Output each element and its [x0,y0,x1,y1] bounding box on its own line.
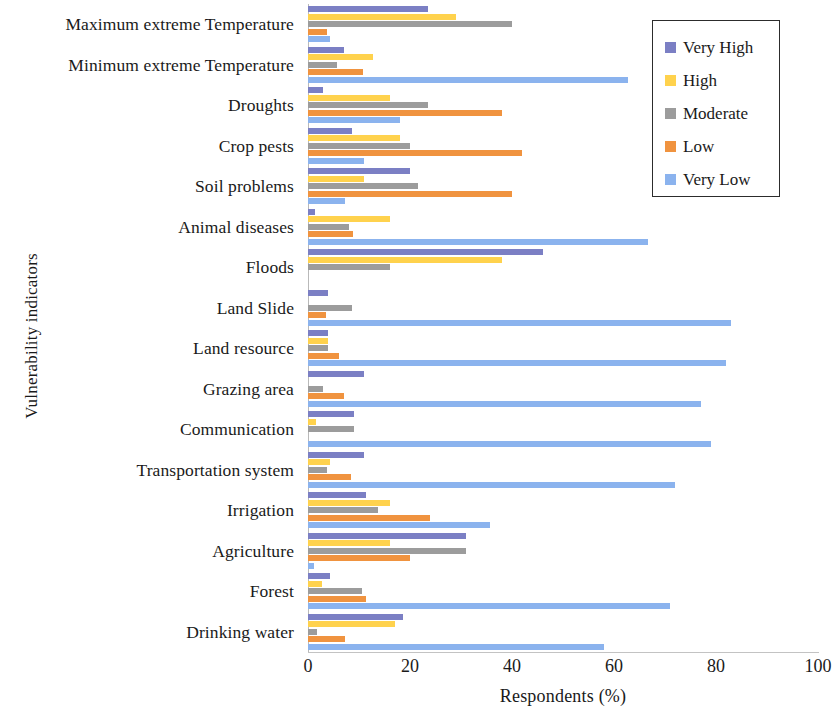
bar [308,110,502,116]
bar-group [308,409,818,450]
bar [308,555,410,561]
y-axis-label: Land Slide [12,298,294,318]
y-axis-label: Animal diseases [12,217,294,237]
x-axis-tick: 0 [278,656,338,677]
bar [308,629,317,635]
bar [308,95,390,101]
bar-group [308,328,818,369]
bar [308,540,390,546]
y-axis-label: Floods [12,257,294,277]
y-axis-label: Maximum extreme Temperature [12,14,294,34]
bar [308,191,512,197]
legend-swatch-icon [665,108,676,119]
bar [308,482,675,488]
bar [308,573,330,579]
bar [308,209,315,215]
y-axis-label: Transportation system [12,460,294,480]
y-axis-label: Grazing area [12,379,294,399]
legend-label: Moderate [683,105,748,122]
bar [308,467,327,473]
bar [308,198,345,204]
bar [308,360,726,366]
y-axis-label: Droughts [12,95,294,115]
bar-group [308,571,818,612]
bar [308,345,328,351]
bar [308,500,390,506]
bar [308,128,352,134]
bar-group [308,612,818,653]
bar [308,581,322,587]
bar [308,320,731,326]
bar [308,426,354,432]
bar [308,371,364,377]
bar [308,135,400,141]
legend-item[interactable]: Very High [653,31,779,64]
x-axis-tick: 100 [788,656,832,677]
bar [308,401,701,407]
bar [308,216,390,222]
bar [308,158,364,164]
bar [308,338,328,344]
bar [308,54,373,60]
legend-label: High [683,72,717,89]
bar [308,168,410,174]
bar [308,117,400,123]
y-axis-label: Crop pests [12,136,294,156]
bar [308,492,366,498]
legend-item[interactable]: Very Low [653,163,779,196]
legend-label: Very Low [683,171,751,188]
y-axis-label: Forest [12,581,294,601]
bar [308,14,456,20]
y-axis-label: Agriculture [12,541,294,561]
bar [308,6,428,12]
bar [308,77,628,83]
bar [308,393,344,399]
bar [308,419,316,425]
bar-group [308,247,818,288]
legend-label: Low [683,138,714,155]
bar [308,69,363,75]
bar [308,62,337,68]
bar [308,411,354,417]
legend-item[interactable]: High [653,64,779,97]
y-axis-label: Irrigation [12,500,294,520]
bar [308,305,352,311]
bar [308,29,327,35]
bar [308,257,502,263]
legend-label: Very High [683,39,753,56]
legend-swatch-icon [665,75,676,86]
bar [308,459,330,465]
bar-group [308,531,818,572]
bar [308,515,430,521]
bar-group [308,369,818,410]
legend: Very HighHighModerateLowVery Low [652,20,780,197]
y-axis-label: Soil problems [12,176,294,196]
bar [308,21,512,27]
bar [308,47,344,53]
legend-item[interactable]: Moderate [653,97,779,130]
bar [308,224,349,230]
x-axis-tick: 60 [584,656,644,677]
bar [308,150,522,156]
bar-chart: Vulnerability indicators Maximum extreme… [0,0,832,718]
bar [308,588,362,594]
bar-group [308,450,818,491]
bar [308,87,323,93]
legend-swatch-icon [665,141,676,152]
y-axis-category-labels: Maximum extreme TemperatureMinimum extre… [18,4,300,652]
bar [308,441,711,447]
bar [308,614,403,620]
y-axis-label: Land resource [12,338,294,358]
y-axis-label: Drinking water [12,622,294,642]
x-axis-tick: 40 [482,656,542,677]
bar [308,312,326,318]
bar [308,644,604,650]
y-axis-label: Minimum extreme Temperature [12,55,294,75]
bar-group [308,288,818,329]
bar [308,249,543,255]
x-axis-title: Respondents (%) [308,686,818,707]
bar [308,533,466,539]
legend-item[interactable]: Low [653,130,779,163]
bar [308,264,390,270]
bar [308,36,330,42]
